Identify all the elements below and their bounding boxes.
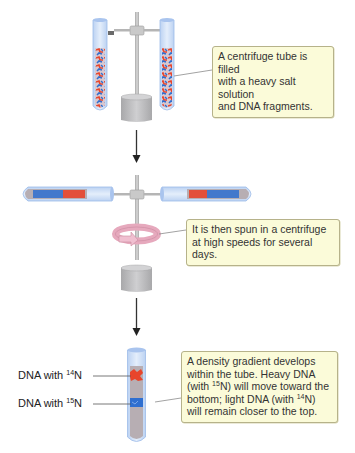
- label-dna-14n: DNA with 14N: [18, 369, 82, 381]
- isotope-superscript: 15: [212, 380, 220, 387]
- isotope-superscript: 14: [66, 369, 74, 376]
- element-symbol: N: [74, 397, 82, 409]
- isotope-superscript: 15: [66, 397, 74, 404]
- callout-line: It is then spun in a centrifuge: [192, 223, 334, 236]
- callout-leader: [159, 230, 186, 234]
- text: N) will move toward the: [220, 380, 329, 392]
- callout-line: and DNA fragments.: [218, 100, 328, 113]
- test-tube-icon: [23, 187, 114, 201]
- element-symbol: N: [74, 369, 82, 381]
- callout-line: A centrifuge tube is filled: [218, 50, 328, 75]
- down-arrow-icon: [133, 130, 141, 163]
- callout-fill-tube: A centrifuge tube is filled with a heavy…: [212, 46, 334, 118]
- isotope-superscript: 14: [297, 393, 305, 400]
- test-tube-icon: [93, 18, 107, 110]
- centrifuge-stand-icon: [108, 12, 166, 122]
- callout-line: within the tube. Heavy DNA: [187, 368, 332, 381]
- callout-line: A density gradient develops: [187, 355, 332, 368]
- callout-line: will remain closer to the top.: [187, 405, 332, 418]
- callout-spin: It is then spun in a centrifuge at high …: [186, 219, 340, 266]
- callout-leader: [155, 398, 181, 402]
- callout-line: with a heavy salt solution: [218, 75, 328, 100]
- label-dna-15n: DNA with 15N: [18, 397, 82, 409]
- text: N): [305, 393, 316, 405]
- test-tube-icon: [160, 187, 251, 201]
- text: (with: [187, 380, 212, 392]
- label-text: DNA with: [18, 369, 66, 381]
- label-text: DNA with: [18, 397, 66, 409]
- callout-density-gradient: A density gradient develops within the t…: [181, 351, 338, 423]
- callout-line: bottom; light DNA (with 14N): [187, 393, 332, 406]
- test-tube-icon: [160, 18, 174, 110]
- callout-leader: [174, 70, 212, 76]
- callout-line: (with 15N) will move toward the: [187, 380, 332, 393]
- down-arrow-icon: [133, 298, 141, 336]
- callout-line: at high speeds for several days.: [192, 236, 334, 261]
- text: bottom; light DNA (with: [187, 393, 297, 405]
- dna-15n-band: [130, 398, 143, 407]
- test-tube-icon: [128, 348, 146, 442]
